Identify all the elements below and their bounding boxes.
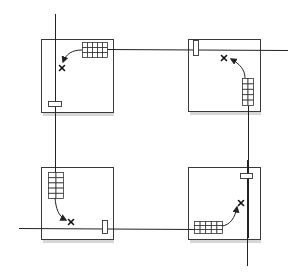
- panel-shadow: [43, 113, 114, 116]
- grid-cell: [49, 178, 57, 183]
- grid-cell: [195, 222, 201, 226]
- grid-cell: [200, 226, 206, 230]
- grid-cell: [103, 43, 108, 48]
- grid-cell: [88, 53, 93, 58]
- grid-cell: [56, 193, 64, 198]
- grid-cell: [93, 48, 98, 53]
- grid-cell: [98, 48, 103, 53]
- panel-shadow: [190, 112, 261, 115]
- grid-cell: [83, 53, 88, 58]
- grid-cell: [206, 222, 212, 226]
- grid-cell: [98, 43, 103, 48]
- panel-shadow: [190, 240, 261, 243]
- grid-cell: [103, 53, 108, 58]
- grid-cell: [88, 43, 93, 48]
- grid-cell: [56, 183, 64, 188]
- grid-cell: [56, 188, 64, 193]
- grid-cell: [83, 43, 88, 48]
- grid-cell: [49, 183, 57, 188]
- grid-cell: [93, 43, 98, 48]
- grid-cell: [195, 230, 201, 234]
- panel-shadow: [43, 240, 114, 243]
- grid-cell: [248, 89, 254, 94]
- grid-cell: [217, 222, 223, 226]
- grid-cell: [217, 226, 223, 230]
- grid-cell: [248, 95, 254, 100]
- grid-cell: [217, 230, 223, 234]
- grid-cell: [211, 230, 217, 234]
- grid-cell: [243, 89, 249, 94]
- grid-cell: [243, 95, 249, 100]
- grid-cell: [93, 53, 98, 58]
- grid-cell: [83, 48, 88, 53]
- grid-cell: [56, 173, 64, 178]
- grid-cell: [49, 173, 57, 178]
- grid-cell: [243, 100, 249, 105]
- grid-cell: [206, 226, 212, 230]
- grid-cell: [49, 193, 57, 198]
- grid-cell: [243, 79, 249, 84]
- grid-cell: [103, 48, 108, 53]
- grid-cell: [243, 84, 249, 89]
- grid-cell: [195, 226, 201, 230]
- diagram-canvas: [0, 0, 303, 280]
- grid-cell: [200, 230, 206, 234]
- cell-grid-bottom-left: [49, 173, 64, 199]
- grid-cell: [200, 222, 206, 226]
- grid-cell: [248, 79, 254, 84]
- slot-top-left: [49, 102, 62, 107]
- grid-cell: [88, 48, 93, 53]
- cell-grid-top-right: [243, 79, 254, 106]
- grid-cell: [56, 178, 64, 183]
- grid-cell: [49, 188, 57, 193]
- grid-cell: [248, 100, 254, 105]
- grid-cell: [248, 84, 254, 89]
- grid-cell: [206, 230, 212, 234]
- cell-grid-top-left: [83, 43, 108, 58]
- grid-cell: [211, 222, 217, 226]
- slot-bottom-right: [241, 174, 253, 179]
- cell-grid-bottom-right: [195, 222, 223, 234]
- grid-cell: [211, 226, 217, 230]
- slot-top-right: [194, 41, 199, 56]
- slot-bottom-left: [103, 221, 108, 234]
- grid-cell: [98, 53, 103, 58]
